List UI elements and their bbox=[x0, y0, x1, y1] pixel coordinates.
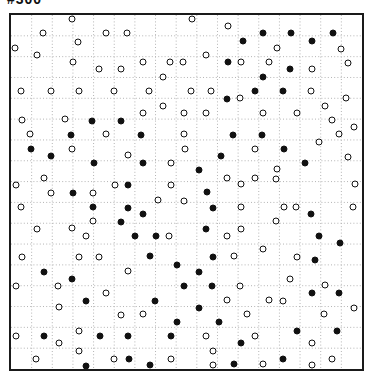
black-circle bbox=[125, 205, 132, 212]
black-circle bbox=[168, 333, 175, 340]
white-circle bbox=[56, 340, 63, 347]
white-circle bbox=[103, 30, 110, 37]
white-circle bbox=[125, 152, 132, 159]
white-circle bbox=[12, 45, 19, 52]
black-circle bbox=[90, 204, 97, 211]
black-circle bbox=[203, 226, 210, 233]
white-circle bbox=[40, 30, 47, 37]
white-circle bbox=[336, 131, 343, 138]
white-circle bbox=[316, 139, 323, 146]
white-circle bbox=[48, 190, 55, 197]
white-circle bbox=[309, 66, 316, 73]
white-circle bbox=[13, 283, 20, 290]
white-circle bbox=[280, 298, 287, 305]
white-circle bbox=[244, 311, 251, 318]
white-circle bbox=[76, 254, 83, 261]
black-circle bbox=[210, 254, 217, 261]
black-circle bbox=[125, 333, 132, 340]
white-circle bbox=[274, 166, 281, 173]
white-circle bbox=[252, 333, 259, 340]
white-circle bbox=[224, 233, 231, 240]
white-circle bbox=[19, 254, 26, 261]
white-circle bbox=[274, 45, 281, 52]
white-circle bbox=[83, 233, 90, 240]
white-circle bbox=[260, 246, 267, 253]
white-circle bbox=[70, 59, 77, 66]
black-circle bbox=[125, 182, 132, 189]
black-circle bbox=[48, 153, 55, 160]
black-circle bbox=[41, 333, 48, 340]
black-circle bbox=[83, 298, 90, 305]
white-circle bbox=[103, 290, 110, 297]
black-circle bbox=[330, 30, 337, 37]
white-circle bbox=[76, 88, 83, 95]
white-circle bbox=[293, 204, 300, 211]
black-circle bbox=[316, 233, 323, 240]
black-circle bbox=[204, 189, 211, 196]
white-circle bbox=[260, 361, 267, 368]
black-circle bbox=[68, 132, 75, 139]
white-circle bbox=[238, 59, 245, 66]
black-circle bbox=[152, 298, 159, 305]
white-circle bbox=[18, 88, 25, 95]
black-circle bbox=[147, 253, 154, 260]
puzzle-stage: #300 bbox=[0, 0, 369, 383]
white-circle bbox=[13, 182, 20, 189]
white-circle bbox=[160, 74, 167, 81]
white-circle bbox=[203, 333, 210, 340]
white-circle bbox=[210, 348, 217, 355]
white-circle bbox=[166, 233, 173, 240]
white-circle bbox=[167, 59, 174, 66]
white-circle bbox=[352, 181, 359, 188]
white-circle bbox=[62, 116, 69, 123]
white-circle bbox=[208, 88, 215, 95]
white-circle bbox=[189, 16, 196, 23]
white-circle bbox=[90, 190, 97, 197]
black-circle bbox=[91, 160, 98, 167]
white-circle bbox=[322, 103, 329, 110]
black-circle bbox=[309, 290, 316, 297]
black-circle bbox=[70, 190, 77, 197]
black-circle bbox=[287, 66, 294, 73]
black-circle bbox=[118, 118, 125, 125]
black-circle bbox=[280, 356, 287, 363]
white-circle bbox=[252, 146, 259, 153]
white-circle bbox=[55, 283, 62, 290]
black-circle bbox=[132, 233, 139, 240]
white-circle bbox=[308, 88, 315, 95]
white-circle bbox=[118, 312, 125, 319]
white-circle bbox=[203, 52, 210, 59]
white-circle bbox=[48, 88, 55, 95]
white-circle bbox=[237, 283, 244, 290]
white-circle bbox=[13, 333, 20, 340]
black-circle bbox=[174, 262, 181, 269]
white-circle bbox=[182, 146, 189, 153]
white-circle bbox=[345, 60, 352, 67]
black-circle bbox=[140, 211, 147, 218]
white-circle bbox=[188, 88, 195, 95]
black-circle bbox=[259, 132, 266, 139]
black-circle bbox=[209, 283, 216, 290]
white-circle bbox=[34, 226, 41, 233]
white-circle bbox=[140, 110, 147, 117]
black-circle bbox=[302, 160, 309, 167]
black-circle bbox=[337, 240, 344, 247]
white-circle bbox=[225, 23, 232, 30]
black-circle bbox=[308, 211, 315, 218]
black-circle bbox=[181, 283, 188, 290]
black-circle bbox=[252, 88, 259, 95]
white-circle bbox=[322, 282, 329, 289]
white-circle bbox=[343, 95, 350, 102]
black-circle bbox=[196, 167, 203, 174]
white-circle bbox=[351, 124, 358, 131]
white-circle bbox=[309, 340, 316, 347]
white-circle bbox=[125, 268, 132, 275]
white-circle bbox=[181, 198, 188, 205]
white-circle bbox=[168, 160, 175, 167]
black-circle bbox=[336, 290, 343, 297]
white-circle bbox=[252, 175, 259, 182]
white-circle bbox=[56, 304, 63, 311]
black-circle bbox=[216, 319, 223, 326]
white-circle bbox=[287, 276, 294, 283]
white-circle bbox=[321, 311, 328, 318]
